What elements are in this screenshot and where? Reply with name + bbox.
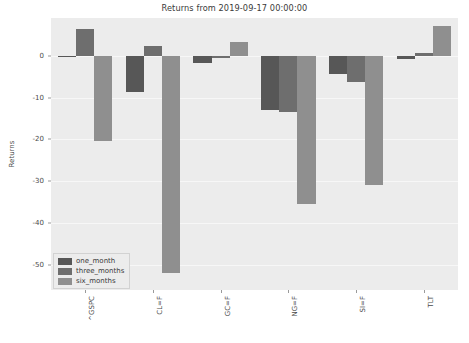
x-tick-mark bbox=[221, 290, 222, 293]
bar-NGF-six_months bbox=[297, 56, 315, 205]
chart-legend: one_monththree_monthssix_months bbox=[53, 253, 130, 289]
bar-TLT-six_months bbox=[433, 26, 451, 55]
chart-title: Returns from 2019-09-17 00:00:00 bbox=[0, 3, 469, 13]
bar-SIF-three_months bbox=[347, 56, 365, 82]
bar-CLF-six_months bbox=[162, 56, 180, 274]
x-tick-label: NG=F bbox=[291, 296, 299, 317]
bar-GSPC-six_months bbox=[94, 56, 112, 142]
grid-line bbox=[51, 181, 458, 182]
plot-area bbox=[51, 18, 458, 290]
bar-SIF-six_months bbox=[365, 56, 383, 186]
bar-NGF-one_month bbox=[261, 56, 279, 110]
legend-swatch-six_months bbox=[58, 278, 72, 285]
x-tick-mark bbox=[356, 290, 357, 293]
legend-item-one_month: one_month bbox=[58, 257, 124, 265]
x-tick-mark bbox=[153, 290, 154, 293]
bar-GSPC-one_month bbox=[58, 56, 76, 57]
x-tick-label: GC=F bbox=[224, 296, 232, 316]
y-axis-label-text: Returns bbox=[8, 141, 16, 168]
x-tick-mark bbox=[424, 290, 425, 293]
chart-figure: Returns from 2019-09-17 00:00:00 0-10-20… bbox=[0, 0, 469, 343]
bar-CLF-one_month bbox=[126, 56, 144, 93]
x-tick-label: SI=F bbox=[359, 296, 367, 312]
bar-GSPC-three_months bbox=[76, 29, 94, 55]
x-tick-label: TLT bbox=[427, 296, 435, 308]
x-tick-mark bbox=[288, 290, 289, 293]
legend-swatch-one_month bbox=[58, 258, 72, 265]
legend-label-one_month: one_month bbox=[76, 257, 115, 265]
y-axis-label: Returns bbox=[6, 18, 18, 290]
legend-label-three_months: three_months bbox=[76, 267, 124, 275]
bar-TLT-one_month bbox=[397, 56, 415, 59]
y-tick-label: 0 bbox=[40, 52, 44, 60]
bar-NGF-three_months bbox=[279, 56, 297, 112]
x-tick-mark bbox=[85, 290, 86, 293]
grid-line bbox=[51, 139, 458, 140]
bar-GCF-three_months bbox=[212, 56, 230, 58]
legend-item-three_months: three_months bbox=[58, 267, 124, 275]
grid-line bbox=[51, 223, 458, 224]
y-tick-label: -40 bbox=[33, 219, 44, 227]
bar-GCF-six_months bbox=[230, 42, 248, 56]
x-tick-label: CL=F bbox=[156, 296, 164, 315]
y-tick-label: -30 bbox=[33, 177, 44, 185]
y-tick-label: -50 bbox=[33, 261, 44, 269]
bar-TLT-three_months bbox=[415, 53, 433, 56]
legend-swatch-three_months bbox=[58, 268, 72, 275]
bar-SIF-one_month bbox=[329, 56, 347, 75]
x-axis: ^GSPCCL=FGC=FNG=FSI=FTLT bbox=[51, 290, 458, 343]
y-tick-label: -20 bbox=[33, 135, 44, 143]
bar-CLF-three_months bbox=[144, 46, 162, 55]
grid-line bbox=[51, 98, 458, 99]
legend-item-six_months: six_months bbox=[58, 277, 124, 285]
bar-GCF-one_month bbox=[193, 56, 211, 64]
y-tick-label: -10 bbox=[33, 94, 44, 102]
x-tick-label: ^GSPC bbox=[88, 296, 96, 321]
legend-label-six_months: six_months bbox=[76, 277, 116, 285]
